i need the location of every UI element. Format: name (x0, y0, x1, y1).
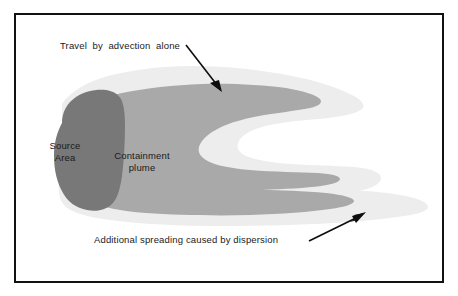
label-containment-plume: Containment plume (106, 150, 178, 174)
label-additional-spreading: Additional spreading caused by dispersio… (94, 234, 278, 246)
label-travel-by-advection: Travel by advection alone (60, 40, 180, 52)
label-source-area: Source Area (36, 140, 94, 164)
plume-diagram-figure: Travel by advection alone Additional spr… (0, 0, 458, 296)
